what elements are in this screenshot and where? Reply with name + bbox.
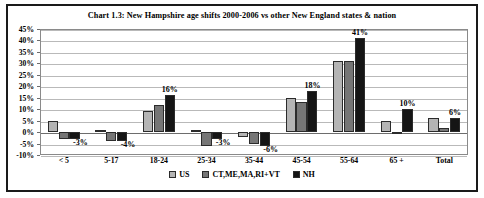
bar-nh (450, 118, 460, 132)
bar-us (48, 121, 58, 132)
bar-us (286, 98, 296, 132)
legend-item: NH (293, 170, 315, 179)
bar-us (95, 130, 105, 132)
bar-group: -4% (88, 29, 136, 155)
x-axis: < 55-1718-2425-3435-4445-5455-6465 +Tota… (40, 156, 468, 169)
legend-item: CT,ME,MA,RI+VT (202, 170, 279, 179)
y-axis: 45%40%35%30%25%20%15%10%5%0%-5%-10% (0, 29, 40, 155)
bar-ctmemarivt (154, 105, 164, 132)
x-axis-tick-label: Total (421, 156, 469, 169)
x-axis-tick-label: 45-54 (278, 156, 326, 169)
bar-group: 41% (325, 29, 373, 155)
bar-group: 6% (421, 29, 469, 155)
y-axis-tick-label: -10% (16, 151, 34, 160)
x-axis-tick-label: 5-17 (88, 156, 136, 169)
bar-data-label: 18% (304, 81, 320, 90)
bar-data-label: 41% (352, 28, 368, 37)
y-axis-tick-label: 25% (19, 70, 34, 79)
bar-ctmemarivt (439, 128, 449, 133)
y-axis-tick-label: 30% (19, 59, 34, 68)
bar-data-label: -3% (73, 138, 88, 147)
y-axis-tick-label: -5% (20, 139, 34, 148)
plot-wrapper: -3%-4%16%-3%-6%18%41%10%6% (40, 29, 468, 155)
bar-group: -3% (183, 29, 231, 155)
legend-swatch-icon (202, 171, 209, 178)
legend-item: US (169, 170, 189, 179)
bar-groups: -3%-4%16%-3%-6%18%41%10%6% (40, 29, 468, 155)
x-axis-tick-label: 35-44 (230, 156, 278, 169)
x-axis-tick-label: 55-64 (325, 156, 373, 169)
legend-label: CT,ME,MA,RI+VT (212, 170, 279, 179)
legend-swatch-icon (293, 171, 300, 178)
y-axis-tick-label: 35% (19, 47, 34, 56)
legend-label: US (179, 170, 189, 179)
bar-nh (307, 91, 317, 132)
bar-us (191, 130, 201, 132)
x-axis-tick-label: 65 + (373, 156, 421, 169)
bar-nh (260, 132, 270, 146)
bar-nh (355, 38, 365, 132)
bar-group: -6% (230, 29, 278, 155)
y-axis-tick-label: 20% (19, 82, 34, 91)
bar-group: 16% (135, 29, 183, 155)
bar-group: 10% (373, 29, 421, 155)
bar-ctmemarivt (106, 132, 116, 141)
bar-data-label: 10% (400, 99, 416, 108)
bar-ctmemarivt (296, 102, 306, 132)
chart-title: Chart 1.3: New Hampshire age shifts 2000… (0, 11, 484, 20)
bar-us (143, 111, 153, 132)
y-axis-tick-label: 45% (19, 25, 34, 34)
bar-data-label: -4% (121, 140, 136, 149)
bar-data-label: 6% (449, 108, 461, 117)
bar-us (333, 61, 343, 132)
bar-group: 18% (278, 29, 326, 155)
bar-ctmemarivt (392, 132, 402, 134)
bar-us (428, 118, 438, 132)
bar-data-label: -6% (263, 145, 278, 154)
x-axis-tick-label: 25-34 (183, 156, 231, 169)
bar-ctmemarivt (344, 61, 354, 132)
y-axis-tick-label: 5% (23, 116, 34, 125)
bar-data-label: -3% (216, 138, 231, 147)
bar-nh (402, 109, 412, 132)
bar-group: -3% (40, 29, 88, 155)
bar-nh (165, 95, 175, 132)
y-axis-tick-label: 15% (19, 93, 34, 102)
bar-ctmemarivt (201, 132, 211, 146)
chart-screenshot: Chart 1.3: New Hampshire age shifts 2000… (0, 0, 484, 198)
bar-ctmemarivt (249, 132, 259, 143)
bar-data-label: 16% (162, 85, 178, 94)
bar-ctmemarivt (59, 132, 69, 139)
y-axis-tick-label: 0% (23, 128, 34, 137)
bar-us (381, 121, 391, 132)
y-axis-tick-label: 40% (19, 36, 34, 45)
chart-legend: USCT,ME,MA,RI+VTNH (0, 170, 484, 179)
x-axis-tick-label: 18-24 (135, 156, 183, 169)
bar-us (238, 132, 248, 137)
legend-swatch-icon (169, 171, 176, 178)
x-axis-tick-label: < 5 (40, 156, 88, 169)
y-axis-tick-label: 10% (19, 105, 34, 114)
legend-label: NH (303, 170, 315, 179)
